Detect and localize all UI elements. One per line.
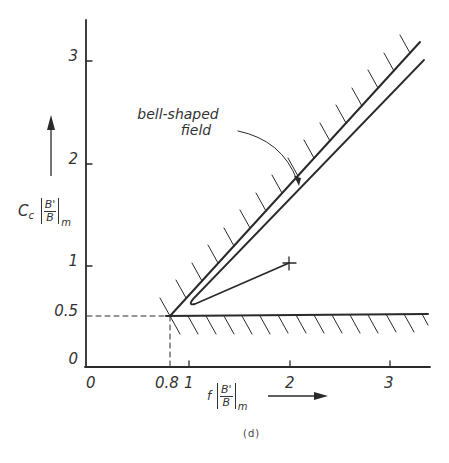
x-axis-title: f B'Bm — [207, 383, 247, 412]
y-tick-label: 0 — [48, 352, 78, 367]
annotation-pointer — [238, 131, 297, 180]
lower-hatching — [170, 314, 428, 334]
plus-marker — [283, 257, 296, 270]
bell-shaped-field-label: bell-shaped field — [108, 106, 248, 138]
y-tick-label: 1 — [48, 254, 78, 269]
x-tick-label: 3 — [384, 376, 394, 391]
x-tick-label: 0 — [86, 376, 96, 391]
x-tick-label: 0.8 — [155, 376, 179, 391]
annotation-arrowhead — [294, 176, 301, 186]
y-axis-title: Cc B'Bm — [18, 198, 71, 228]
bell-shaped-field-curve — [191, 60, 424, 304]
figure-caption: (d) — [243, 428, 260, 439]
y-tick-label: 0.5 — [48, 304, 78, 319]
x-tick-label: 2 — [285, 376, 295, 391]
dashed-guide — [87, 316, 170, 367]
upper-boundary-line — [170, 42, 420, 316]
x-tick-label: 1 — [184, 376, 194, 391]
upper-hatching — [160, 35, 410, 316]
y-tick-label: 2 — [48, 152, 78, 167]
y-tick-label: 3 — [48, 49, 78, 64]
lower-boundary-line — [166, 314, 428, 316]
